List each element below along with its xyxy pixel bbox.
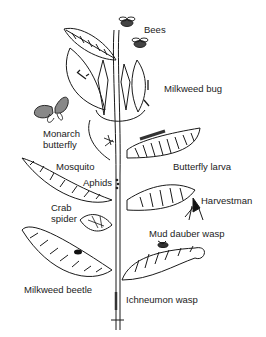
label-butterfly-larva: Butterfly larva — [173, 161, 231, 172]
label-mud-dauber-wasp: Mud dauber wasp — [149, 228, 225, 239]
mud-dauber-wasp-icon — [158, 241, 168, 248]
right-upper-leaf — [127, 128, 200, 158]
milkweed-diagram: Bees Milkweed bug Monarch butterfly Butt… — [0, 0, 266, 337]
top-leaf — [64, 28, 116, 60]
crab-spider-icon — [80, 215, 112, 231]
lower-left-leaf — [22, 227, 112, 277]
label-aphids: Aphids — [83, 177, 112, 188]
label-mosquito: Mosquito — [56, 161, 95, 172]
label-crab-spider-line1: Crab — [51, 202, 72, 213]
label-milkweed-beetle: Milkweed beetle — [24, 284, 92, 295]
monarch-butterfly-icon — [34, 97, 68, 122]
label-monarch-butterfly-line2: butterfly — [43, 139, 77, 150]
milkweed-bug-icon — [77, 70, 149, 106]
mosquito-icon — [104, 135, 114, 146]
label-crab-spider-line2: spider — [51, 213, 77, 224]
label-monarch-butterfly-line1: Monarch — [43, 128, 80, 139]
right-mid-leaf — [127, 185, 203, 220]
lower-right-leaf — [122, 246, 204, 280]
label-harvestman: Harvestman — [201, 195, 252, 206]
seed-pods — [66, 48, 145, 160]
label-bees: Bees — [144, 24, 166, 35]
label-ichneumon-wasp: Ichneumon wasp — [126, 294, 198, 305]
label-milkweed-bug: Milkweed bug — [164, 83, 222, 94]
